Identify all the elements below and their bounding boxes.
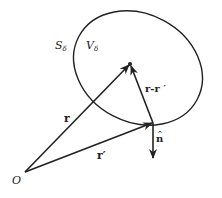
vector-r-minus-r-prime [131,66,153,123]
label-r-minus-r-prime: r-r ′ [145,83,166,94]
label-volume: Vδ [86,39,98,53]
label-surface: Sδ [55,39,67,53]
label-n-hat: n [156,133,164,144]
diagram-canvas: Sδ Vδ r r′ r-r ′ ^ n O [0,0,222,198]
field-point-dot [128,62,132,66]
label-r-prime: r′ [97,149,106,162]
label-origin: O [12,174,21,187]
label-r: r [64,112,70,125]
vector-r [25,65,129,172]
vector-r-prime [25,123,152,172]
surface-ellipse [53,0,222,147]
